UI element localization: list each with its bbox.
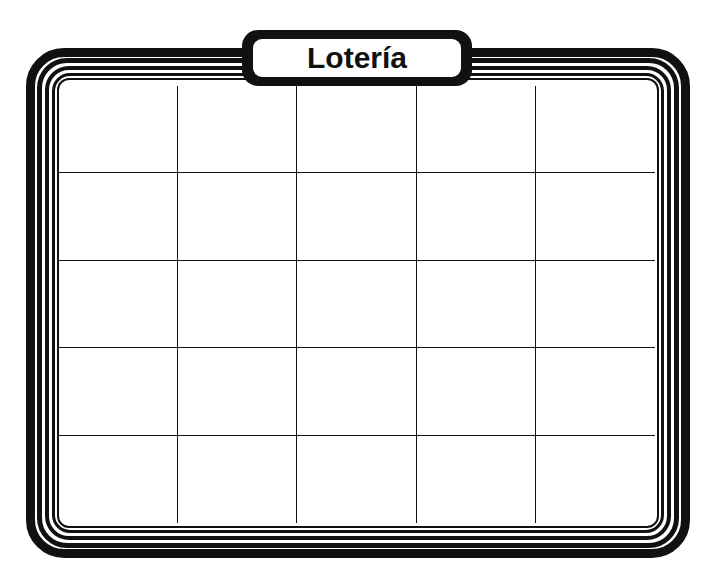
grid-cell[interactable] [59, 436, 178, 523]
grid-cell[interactable] [297, 86, 416, 173]
grid-cell[interactable] [536, 261, 655, 348]
grid-cell[interactable] [417, 173, 536, 260]
grid-cell[interactable] [178, 348, 297, 435]
grid-cell[interactable] [59, 86, 178, 173]
grid-cell[interactable] [297, 173, 416, 260]
grid-cell[interactable] [417, 436, 536, 523]
grid-cell[interactable] [178, 436, 297, 523]
grid-cell[interactable] [59, 261, 178, 348]
card-title: Lotería [307, 41, 407, 75]
grid-cell[interactable] [536, 173, 655, 260]
grid-cell[interactable] [297, 348, 416, 435]
grid-cell[interactable] [417, 261, 536, 348]
grid-cell[interactable] [178, 86, 297, 173]
grid-cell[interactable] [59, 173, 178, 260]
grid-cell[interactable] [536, 436, 655, 523]
grid-cell[interactable] [536, 86, 655, 173]
grid-cell[interactable] [178, 173, 297, 260]
grid-cell[interactable] [297, 261, 416, 348]
title-badge: Lotería [251, 37, 463, 79]
card-grid [59, 86, 655, 523]
grid-cell[interactable] [59, 348, 178, 435]
grid-cell[interactable] [536, 348, 655, 435]
grid-cell[interactable] [417, 86, 536, 173]
grid-cell[interactable] [178, 261, 297, 348]
grid-cell[interactable] [417, 348, 536, 435]
grid-cell[interactable] [297, 436, 416, 523]
